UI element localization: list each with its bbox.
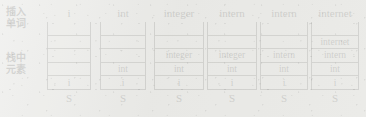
stack-column-footer: S	[281, 92, 287, 105]
stack-column-footer: S	[120, 92, 126, 105]
stack-cell	[48, 35, 90, 49]
stack-box: internet intern int i	[311, 22, 359, 90]
stack-cell: i	[155, 75, 203, 89]
stack-box: intern int i	[260, 22, 308, 90]
stack-column-footer: S	[66, 92, 72, 105]
stack-column: i i S	[47, 0, 91, 117]
stack-cell	[48, 22, 90, 35]
stack-cell: integer	[208, 48, 256, 62]
stack-box: integer int i	[154, 22, 204, 90]
row-label-stack-elements-line1: 栈中	[6, 52, 40, 64]
stack-cell: integer	[155, 48, 203, 62]
stack-cell: internet	[312, 35, 358, 49]
stack-cell: int	[312, 62, 358, 76]
stack-cell: intern	[312, 48, 358, 62]
stack-cell	[208, 22, 256, 35]
stack-column-header: integer	[164, 7, 195, 20]
stack-cell	[48, 48, 90, 62]
diagram-canvas: 插入 单词 栈中 元素 i i S int int i S integer	[0, 0, 366, 117]
stack-cell	[101, 48, 145, 62]
stack-column-footer: S	[229, 92, 235, 105]
stack-cell: i	[208, 75, 256, 89]
row-label-insert-word-line1: 插入	[6, 6, 40, 18]
stack-column-footer: S	[176, 92, 182, 105]
stack-cell	[155, 35, 203, 49]
stack-cell: i	[261, 75, 307, 89]
stack-column: internet internet intern int i S	[311, 0, 359, 117]
stack-cell	[312, 22, 358, 35]
row-label-stack-elements-line2: 元素	[6, 64, 40, 76]
stack-cell: int	[208, 62, 256, 76]
stack-column-header: i	[67, 7, 70, 20]
stack-cell: int	[155, 62, 203, 76]
stack-column: int int i S	[100, 0, 146, 117]
stack-cell: i	[312, 75, 358, 89]
stack-cell: i	[101, 75, 145, 89]
stack-cell: intern	[261, 48, 307, 62]
stack-column-header: int	[117, 7, 129, 20]
stack-cell	[155, 22, 203, 35]
stack-column: intern intern int i S	[260, 0, 308, 117]
row-label-insert-word: 插入 单词	[6, 6, 40, 29]
stack-column-header: intern	[219, 7, 245, 20]
stack-cell	[48, 62, 90, 76]
stack-cell: int	[101, 62, 145, 76]
stack-column-header: intern	[271, 7, 297, 20]
stack-cell	[101, 22, 145, 35]
stack-column: integer integer int i S	[154, 0, 204, 117]
row-label-insert-word-line2: 单词	[6, 18, 40, 30]
stack-column-footer: S	[332, 92, 338, 105]
stack-cell	[261, 22, 307, 35]
stack-cell	[208, 35, 256, 49]
stack-cell	[101, 35, 145, 49]
stack-cell	[261, 35, 307, 49]
row-label-stack-elements: 栈中 元素	[6, 52, 40, 75]
stack-column-header: internet	[318, 7, 352, 20]
stack-cell: i	[48, 75, 90, 89]
stack-box: integer int i	[207, 22, 257, 90]
stack-box: i	[47, 22, 91, 90]
stack-cell: int	[261, 62, 307, 76]
stack-column: intern integer int i S	[207, 0, 257, 117]
stack-box: int i	[100, 22, 146, 90]
